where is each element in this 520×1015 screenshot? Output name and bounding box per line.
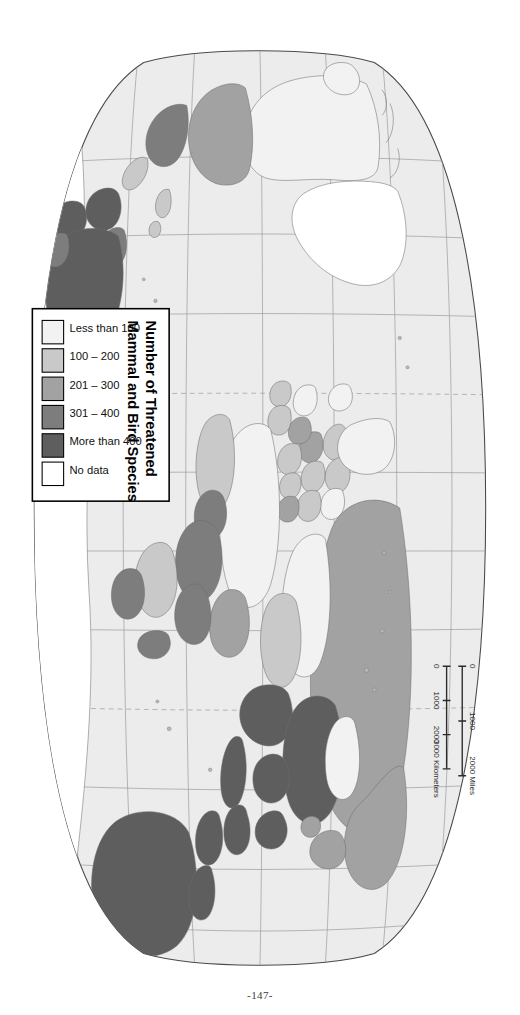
world-map-svg: 0 1000 2000 Miles 0 1000 2000 3000 Kilom…: [28, 44, 491, 970]
legend-label-1: 100 – 200: [69, 350, 119, 362]
region-chile: [38, 226, 50, 238]
scale-mile-tick-0: 0: [468, 664, 477, 669]
region-australia: [92, 811, 197, 956]
legend-swatch-0[interactable]: [42, 320, 63, 343]
legend-title-line-2: Mammal and Bird Species: [125, 320, 141, 501]
legend-label-3: 301 – 400: [69, 407, 119, 419]
world-map-figure: 0 1000 2000 Miles 0 1000 2000 3000 Kilom…: [28, 44, 491, 970]
legend-label-5: No data: [69, 463, 109, 475]
region-new-zealand: [73, 941, 96, 964]
legend-label-4: More than 400: [69, 435, 141, 447]
scale-km-tick-0: 0: [432, 664, 441, 669]
map-legend: Number of Threatened Mammal and Bird Spe…: [32, 308, 169, 501]
legend-swatch-1[interactable]: [42, 348, 63, 371]
legend-label-0: Less than 100: [69, 322, 139, 334]
page-number: -147-: [0, 989, 520, 1001]
scale-mile-unit: 2000 Miles: [468, 756, 477, 795]
legend-swatch-3[interactable]: [42, 405, 63, 428]
region-middle-east: [260, 593, 301, 687]
scale-km-unit: 3000 Kilometers: [432, 739, 441, 797]
scanned-page: 0 1000 2000 Miles 0 1000 2000 3000 Kilom…: [0, 0, 520, 1015]
legend-swatch-2[interactable]: [42, 377, 63, 400]
legend-title-line-1: Number of Threatened: [143, 320, 159, 476]
legend-swatch-5[interactable]: [42, 462, 63, 485]
scale-mile-tick-1000: 1000: [468, 712, 477, 730]
scale-km-tick-1000: 1000: [432, 691, 441, 709]
region-argentina: [34, 244, 43, 273]
legend-swatch-4[interactable]: [42, 433, 63, 456]
legend-label-2: 201 – 300: [69, 378, 119, 390]
